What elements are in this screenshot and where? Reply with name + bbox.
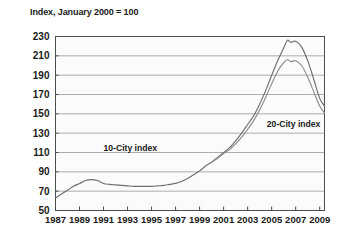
- x-axis-tick-label: 2001: [213, 214, 235, 225]
- x-axis-tick-label: 1989: [69, 214, 90, 225]
- x-axis-tick-label: 2009: [309, 214, 330, 225]
- x-axis-tick-label: 2003: [237, 214, 258, 225]
- x-axis-tick-label: 1997: [165, 214, 186, 225]
- x-axis-tick-label: 2007: [285, 214, 306, 225]
- y-axis-tick-label: 70: [38, 186, 50, 197]
- y-axis-tick-label: 190: [33, 70, 50, 81]
- x-axis-tick-label: 1995: [141, 214, 163, 225]
- x-axis-tick-label: 1999: [189, 214, 210, 225]
- y-axis-tick-label: 150: [33, 108, 50, 119]
- y-axis-tick-label: 130: [33, 128, 50, 139]
- y-axis-tick-label: 210: [33, 50, 50, 61]
- y-axis-tick-label: 230: [33, 31, 50, 42]
- x-axis-tick-label: 1991: [93, 214, 115, 225]
- y-axis-tick-label: 170: [33, 89, 50, 100]
- chart-plot: 230210190170150130110907050 198719891991…: [0, 0, 346, 245]
- x-axis-tick-label: 1993: [117, 214, 138, 225]
- y-axis-tick-label: 110: [33, 147, 50, 158]
- series-annotation-label: 20-City index: [267, 119, 321, 129]
- x-axis-tick-label: 1987: [45, 214, 66, 225]
- y-axis-tick-label: 90: [38, 166, 50, 177]
- y-axis-ticks: 230210190170150130110907050: [33, 31, 59, 216]
- chart-container: Index, January 2000 = 100 23021019017015…: [0, 0, 346, 245]
- x-axis-tick-label: 2005: [261, 214, 283, 225]
- series-annotation-label: 10-City index: [104, 143, 158, 153]
